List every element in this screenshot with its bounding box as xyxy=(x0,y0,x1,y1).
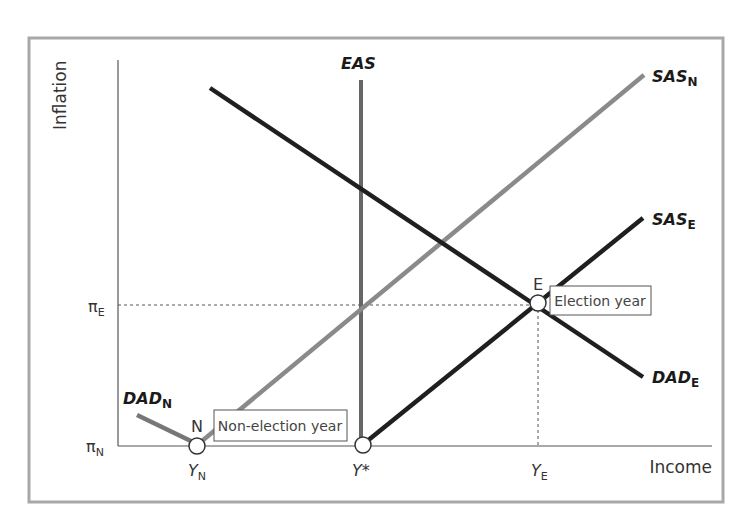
sas-e-label: SASE xyxy=(652,210,696,232)
point-e-marker xyxy=(530,295,546,311)
eas-label: EAS xyxy=(341,54,376,73)
y-tick-pi-e: πE xyxy=(88,297,105,319)
x-tick-y-e: YE xyxy=(531,461,548,483)
sas-n-label: SASN xyxy=(652,67,697,89)
chart-canvas: Inflation Income N E Non-election year E… xyxy=(0,0,749,525)
x-axis-title: Income xyxy=(649,457,712,477)
point-e-label: E xyxy=(533,275,543,294)
dad-e-label: DADE xyxy=(652,368,699,390)
point-n-label: N xyxy=(191,417,203,436)
sas-n-curve xyxy=(202,75,644,441)
y-tick-pi-n: πN xyxy=(86,437,104,459)
point-n-marker xyxy=(189,438,205,454)
x-tick-y-n: YN xyxy=(188,461,206,483)
election-label: Election year xyxy=(554,293,646,309)
point-ystar-marker xyxy=(355,437,371,453)
sas-e-curve xyxy=(366,218,643,442)
dad-n-label: DADN xyxy=(123,389,172,411)
non-election-label: Non-election year xyxy=(218,418,343,434)
y-axis-title: Inflation xyxy=(50,61,70,130)
dad-n-curve xyxy=(137,415,195,443)
x-tick-y-star: Y* xyxy=(352,461,370,480)
